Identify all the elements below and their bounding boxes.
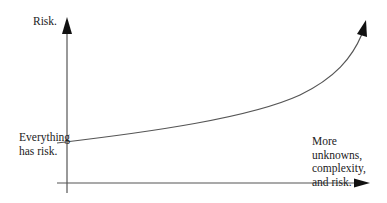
start-label-line: has risk. bbox=[19, 145, 70, 159]
curve-arrowhead-icon bbox=[357, 20, 367, 37]
y-axis bbox=[62, 17, 72, 193]
y-axis-arrowhead-icon bbox=[62, 17, 72, 34]
risk-curve bbox=[57, 20, 367, 143]
end-label-line: unknowns, bbox=[312, 149, 366, 163]
y-axis-label: Risk. bbox=[33, 15, 57, 29]
end-label-line: complexity, bbox=[312, 162, 366, 176]
start-label: Everything has risk. bbox=[19, 131, 70, 158]
end-label-line: and risk. bbox=[312, 176, 366, 190]
start-label-line: Everything bbox=[19, 131, 70, 145]
end-label-line: More bbox=[312, 135, 366, 149]
risk-diagram: Risk. Everything has risk. More unknowns… bbox=[0, 0, 387, 203]
end-label: More unknowns, complexity, and risk. bbox=[312, 135, 366, 189]
